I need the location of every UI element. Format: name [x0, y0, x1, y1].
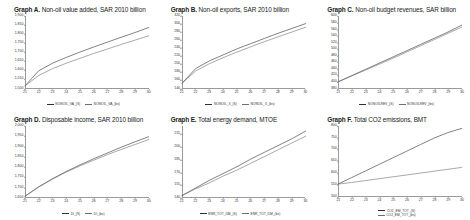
x-axis-tick-label: 29 — [290, 200, 294, 204]
panel-description: Total CO2 emissions, BMT — [354, 116, 427, 123]
y-axis-tick-label: 280 — [174, 31, 180, 35]
y-axis-tick-label: 300 — [174, 23, 180, 27]
x-axis-tick-label: 25 — [235, 91, 239, 95]
x-axis-tick-mark — [305, 198, 306, 199]
legend-label: NONOIL_VA_(S) — [55, 102, 80, 106]
x-axis-tick-label: 28 — [433, 199, 437, 203]
y-axis-tick-label: 800 — [331, 124, 337, 128]
legend-label: ENR_TOT_DM_(S) — [208, 212, 237, 216]
x-axis-tick-mark — [393, 197, 394, 198]
x-axis-tick-mark — [379, 197, 380, 198]
x-axis-tick-mark — [107, 198, 108, 199]
plot-canvas: 1,5001,5501,6001,6501,7001,7501,8001,850… — [25, 16, 149, 88]
x-axis-tick-mark — [420, 89, 421, 90]
series-line — [25, 36, 149, 86]
y-axis-tick-label: 1,900 — [15, 145, 24, 149]
x-axis-tick-mark — [462, 89, 463, 90]
panel-description: Non-oil exports, SAR 2010 billion — [199, 6, 289, 13]
x-axis-tick-mark — [223, 89, 224, 90]
legend-item: NONOIL_X_(bs) — [242, 102, 275, 106]
x-axis-tick-mark — [38, 198, 39, 199]
x-axis-tick-label: 28 — [276, 91, 280, 95]
legend: ENR_TOT_DM_(S)ENR_TOT_DM_(bs) — [173, 210, 308, 217]
x-axis-tick-mark — [38, 89, 39, 90]
x-axis-tick-mark — [420, 197, 421, 198]
x-axis-tick-label: 28 — [433, 91, 437, 95]
x-axis-tick-label: 29 — [133, 200, 137, 204]
legend-label: ENR_TOT_DM_(bs) — [250, 212, 280, 216]
y-axis-tick-label: 200 — [174, 63, 180, 67]
panel-title: Graph F. Total CO2 emissions, BMT — [327, 116, 464, 123]
x-axis-tick-label: 21 — [23, 200, 27, 204]
series-line — [338, 28, 462, 83]
series-line — [25, 140, 149, 197]
x-axis-tick-label: 28 — [119, 200, 123, 204]
series-lines — [25, 16, 149, 88]
y-axis-tick-label: 600 — [331, 171, 337, 175]
legend-swatch — [242, 104, 249, 105]
y-axis-tick-label: 650 — [331, 159, 337, 163]
series-line — [338, 167, 462, 184]
plot-canvas: 14015517018520021521222324252627282930 — [182, 126, 306, 198]
x-axis-tick-mark — [66, 89, 67, 90]
x-axis-tick-label: 23 — [51, 200, 55, 204]
x-axis-tick-mark — [338, 89, 339, 90]
x-axis-tick-mark — [278, 89, 279, 90]
x-axis-tick-label: 26 — [248, 91, 252, 95]
x-axis-tick-mark — [448, 197, 449, 198]
y-axis-tick-label: 220 — [174, 55, 180, 59]
x-axis-tick-mark — [80, 89, 81, 90]
series-lines — [338, 126, 462, 197]
x-axis-tick-mark — [236, 198, 237, 199]
x-axis-tick-label: 23 — [364, 91, 368, 95]
x-axis-tick-label: 25 — [391, 199, 395, 203]
x-axis-tick-label: 25 — [78, 91, 82, 95]
x-axis-tick-label: 22 — [193, 200, 197, 204]
x-axis-tick-mark — [264, 89, 265, 90]
legend-item: NONOIL_X_(S) — [205, 102, 237, 106]
legend-label: NONOIL_X_(S) — [214, 102, 237, 106]
x-axis-tick-mark — [250, 198, 251, 199]
panel-graph-a: Graph A. Non-oil value added, SAR 2010 b… — [0, 0, 157, 110]
x-axis-tick-mark — [407, 197, 408, 198]
x-axis-tick-mark — [407, 89, 408, 90]
panel-graph-d: Graph D. Disposable income, SAR 2010 bil… — [0, 110, 157, 220]
panel-title: Graph C. Non-oil budget revenues, SAR bi… — [327, 6, 464, 13]
panel-description: Disposable income, SAR 2010 billion — [42, 116, 143, 123]
series-lines — [182, 126, 306, 198]
y-axis-tick-label: 700 — [331, 148, 337, 152]
x-axis-tick-mark — [148, 89, 149, 90]
panel-graph-f: Graph F. Total CO2 emissions, BMT 500550… — [313, 110, 470, 220]
panel-label: Graph F. — [327, 116, 352, 123]
x-axis-tick-label: 30 — [303, 200, 307, 204]
x-axis-tick-label: 29 — [133, 91, 137, 95]
legend-swatch — [85, 213, 92, 214]
y-axis-tick-label: 1,800 — [15, 165, 24, 169]
x-axis-tick-mark — [278, 198, 279, 199]
legend: NONOIL_X_(S)NONOIL_X_(bs) — [173, 101, 308, 108]
x-axis-tick-label: 22 — [350, 91, 354, 95]
y-axis-tick-label: 260 — [174, 39, 180, 43]
x-axis-tick-mark — [107, 89, 108, 90]
x-axis-tick-mark — [366, 197, 367, 198]
series-line — [182, 28, 306, 84]
x-axis-tick-label: 27 — [262, 200, 266, 204]
panel-description: Non-oil value added, SAR 2010 billion — [42, 6, 146, 13]
x-axis-tick-label: 25 — [391, 91, 395, 95]
x-axis-tick-mark — [121, 198, 122, 199]
legend-swatch — [200, 213, 207, 214]
panel-label: Graph D. — [14, 116, 40, 123]
x-axis-tick-mark — [52, 89, 53, 90]
x-axis-tick-mark — [250, 89, 251, 90]
x-axis-tick-mark — [121, 89, 122, 90]
x-axis-tick-label: 24 — [64, 91, 68, 95]
x-axis-tick-label: 26 — [405, 199, 409, 203]
x-axis-tick-mark — [434, 197, 435, 198]
legend-item: ENR_TOT_DM_(bs) — [242, 212, 280, 216]
y-axis-tick-label: 320 — [174, 15, 180, 19]
x-axis-tick-mark — [25, 198, 26, 199]
plot-area: 3804004204404604805005205405605806002122… — [321, 15, 464, 99]
y-axis-tick-label: 480 — [331, 54, 337, 58]
y-axis-tick-label: 550 — [331, 183, 337, 187]
y-axis-tick-label: 600 — [331, 15, 337, 19]
